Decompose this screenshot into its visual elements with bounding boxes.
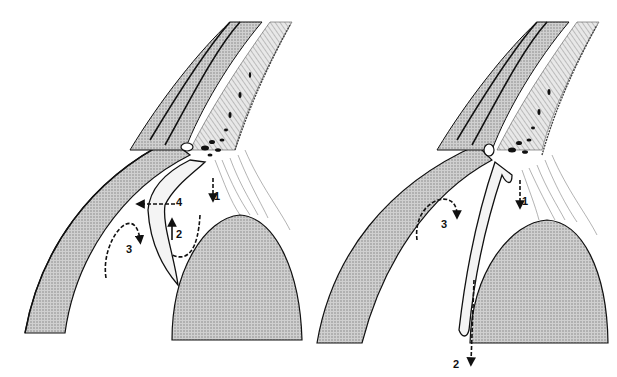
label-3: 3 xyxy=(441,218,447,230)
label-2: 2 xyxy=(453,358,459,370)
lens xyxy=(172,215,302,340)
arrow-3 xyxy=(105,223,140,278)
diagram-panel-right: 1 2 3 xyxy=(307,0,617,377)
label-1: 1 xyxy=(214,190,220,202)
schlemm-canal xyxy=(484,144,494,156)
lens xyxy=(470,220,608,343)
label-4: 4 xyxy=(176,196,183,208)
label-1: 1 xyxy=(522,195,528,207)
eye-cross-section-left: 1 2 3 4 xyxy=(0,0,310,377)
label-2: 2 xyxy=(176,228,182,240)
label-3: 3 xyxy=(126,243,132,255)
diagram-panel-left: 1 2 3 4 xyxy=(0,0,310,377)
eye-cross-section-right: 1 2 3 xyxy=(307,0,617,377)
schlemm-canal xyxy=(181,143,193,151)
